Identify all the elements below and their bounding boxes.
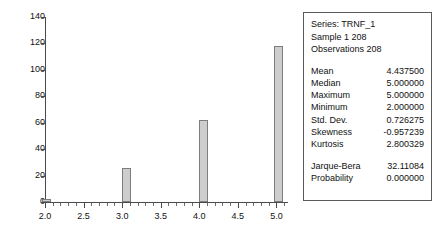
y-tick: 20 — [0, 176, 45, 177]
x-tick-minor — [207, 203, 208, 206]
histogram-bar — [42, 199, 51, 202]
sample-label: Sample 1 208 — [311, 31, 424, 44]
histogram-bar — [122, 168, 131, 202]
stat-row: Mean4.437500 — [311, 65, 424, 77]
x-tick-label: 4.5 — [223, 211, 253, 221]
x-tick-label: 4.0 — [184, 211, 214, 221]
x-tick-label: 2.0 — [30, 211, 60, 221]
stat-value: 32.11084 — [387, 160, 424, 172]
x-tick-minor — [222, 203, 223, 206]
x-tick-minor — [230, 203, 231, 206]
normality-test-list: Jarque-Bera32.11084Probability0.000000 — [311, 160, 424, 185]
stat-key: Std. Dev. — [311, 114, 347, 126]
x-tick-major — [84, 203, 85, 208]
y-tick-mark — [41, 149, 45, 150]
x-tick-minor — [107, 203, 108, 206]
x-tick-minor — [168, 203, 169, 206]
stat-row: Skewness-0.957239 — [311, 126, 424, 138]
x-tick-minor — [215, 203, 216, 206]
x-tick-minor — [60, 203, 61, 206]
histogram-plot: 020406080100120140 2.02.53.03.54.04.55.0 — [0, 0, 295, 239]
y-tick-mark — [41, 17, 45, 18]
stat-key: Jarque-Bera — [311, 160, 361, 172]
series-label: Series: TRNF_1 — [311, 18, 424, 31]
x-tick-minor — [253, 203, 254, 206]
stat-row: Median5.000000 — [311, 77, 424, 89]
x-tick-minor — [284, 203, 285, 206]
x-tick-minor — [138, 203, 139, 206]
stat-key: Skewness — [311, 126, 352, 138]
y-tick: 60 — [0, 123, 45, 124]
y-tick-mark — [41, 43, 45, 44]
stat-row: Maximum5.000000 — [311, 89, 424, 101]
x-tick-minor — [114, 203, 115, 206]
x-tick-minor — [76, 203, 77, 206]
x-tick-label: 5.0 — [261, 211, 291, 221]
x-tick-minor — [145, 203, 146, 206]
stat-row: Minimum2.000000 — [311, 101, 424, 113]
x-tick-minor — [246, 203, 247, 206]
statistics-panel: Series: TRNF_1 Sample 1 208 Observations… — [303, 12, 432, 201]
stat-value: -0.957239 — [383, 126, 424, 138]
stat-key: Mean — [311, 65, 334, 77]
x-tick-label: 3.5 — [146, 211, 176, 221]
x-tick-major — [276, 203, 277, 208]
stat-key: Kurtosis — [311, 138, 344, 150]
y-tick-mark — [41, 123, 45, 124]
y-tick: 140 — [0, 17, 45, 18]
y-tick: 100 — [0, 70, 45, 71]
y-tick-label: 20 — [11, 171, 45, 180]
x-axis-line — [45, 202, 288, 203]
x-tick-minor — [153, 203, 154, 206]
x-tick-minor — [192, 203, 193, 206]
observations-label: Observations 208 — [311, 43, 424, 56]
stat-key: Median — [311, 77, 341, 89]
y-tick-label: 60 — [11, 118, 45, 127]
x-tick-minor — [68, 203, 69, 206]
y-tick-mark — [41, 70, 45, 71]
y-tick: 80 — [0, 96, 45, 97]
x-tick-major — [45, 203, 46, 208]
x-tick-label: 2.5 — [69, 211, 99, 221]
stat-row: Probability0.000000 — [311, 172, 424, 184]
x-tick-major — [161, 203, 162, 208]
y-tick-label: 100 — [11, 65, 45, 74]
y-tick-mark — [41, 96, 45, 97]
stat-row: Jarque-Bera32.11084 — [311, 160, 424, 172]
stat-value: 0.000000 — [386, 172, 424, 184]
y-tick: 40 — [0, 149, 45, 150]
y-tick: 120 — [0, 43, 45, 44]
histogram-figure: 020406080100120140 2.02.53.03.54.04.55.0… — [0, 0, 441, 239]
stat-row: Std. Dev.0.726275 — [311, 114, 424, 126]
y-tick-label: 140 — [11, 12, 45, 21]
stat-value: 2.000000 — [386, 101, 424, 113]
stat-row: Kurtosis2.800329 — [311, 138, 424, 150]
x-tick-minor — [99, 203, 100, 206]
x-tick-minor — [91, 203, 92, 206]
y-tick-label: 120 — [11, 38, 45, 47]
stat-key: Minimum — [311, 101, 348, 113]
y-axis-line — [45, 17, 46, 202]
x-tick-minor — [53, 203, 54, 206]
x-tick-minor — [176, 203, 177, 206]
stat-value: 2.800329 — [386, 138, 424, 150]
x-tick-label: 3.0 — [107, 211, 137, 221]
x-tick-minor — [184, 203, 185, 206]
descriptive-stats-list: Mean4.437500Median5.000000Maximum5.00000… — [311, 65, 424, 151]
x-tick-major — [238, 203, 239, 208]
x-tick-major — [122, 203, 123, 208]
stat-value: 0.726275 — [386, 114, 424, 126]
x-tick-minor — [269, 203, 270, 206]
histogram-bar — [274, 46, 283, 202]
stat-key: Maximum — [311, 89, 350, 101]
stat-key: Probability — [311, 172, 353, 184]
y-tick-label: 0 — [11, 197, 45, 206]
stat-value: 4.437500 — [386, 65, 424, 77]
x-tick-minor — [261, 203, 262, 206]
y-tick-label: 40 — [11, 144, 45, 153]
stat-value: 5.000000 — [386, 89, 424, 101]
y-tick-mark — [41, 176, 45, 177]
histogram-bar — [199, 120, 208, 202]
spacer — [311, 56, 424, 65]
x-tick-minor — [130, 203, 131, 206]
